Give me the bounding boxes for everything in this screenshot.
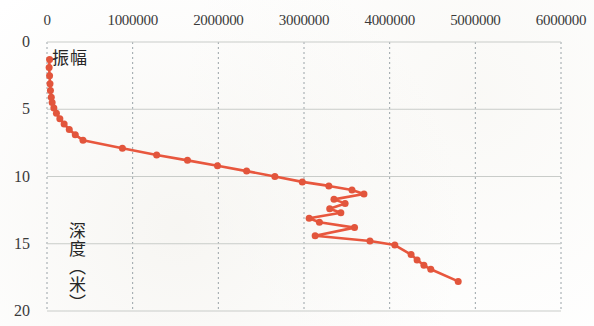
data-point bbox=[243, 168, 250, 175]
data-point bbox=[330, 196, 337, 203]
x-tick-label: 1000000 bbox=[107, 12, 157, 29]
y-tick-label: 15 bbox=[14, 235, 30, 253]
y-tick-label: 20 bbox=[14, 302, 30, 320]
data-point bbox=[342, 200, 349, 207]
x-tick-label: 2000000 bbox=[193, 12, 243, 29]
data-point bbox=[61, 121, 68, 128]
data-point bbox=[420, 262, 427, 269]
data-point bbox=[184, 157, 191, 164]
data-point bbox=[72, 131, 79, 138]
y-tick-label: 5 bbox=[22, 100, 30, 118]
data-point bbox=[46, 72, 53, 79]
data-point bbox=[153, 151, 160, 158]
data-point bbox=[271, 173, 278, 180]
data-point bbox=[427, 266, 434, 273]
data-point bbox=[391, 242, 398, 249]
data-point bbox=[337, 209, 344, 216]
data-point bbox=[312, 232, 319, 239]
data-point bbox=[119, 145, 126, 152]
data-point bbox=[360, 190, 367, 197]
y-tick-label: 10 bbox=[14, 168, 30, 186]
data-point bbox=[299, 178, 306, 185]
amplitude-depth-chart: 0100000020000003000000400000050000006000… bbox=[0, 0, 594, 326]
x-tick-label: 0 bbox=[43, 12, 50, 29]
data-point bbox=[348, 186, 355, 193]
series-label-amplitude: 振幅 bbox=[52, 44, 88, 69]
data-point bbox=[351, 224, 358, 231]
amplitude-series-path bbox=[49, 59, 458, 281]
data-point bbox=[47, 80, 54, 87]
plot-area bbox=[47, 42, 561, 311]
plot-svg bbox=[47, 42, 561, 311]
data-point bbox=[79, 137, 86, 144]
data-point bbox=[325, 182, 332, 189]
y-tick-label: 0 bbox=[22, 33, 30, 51]
x-tick-label: 4000000 bbox=[364, 12, 414, 29]
data-point bbox=[316, 219, 323, 226]
data-point bbox=[408, 251, 415, 258]
data-point bbox=[414, 256, 421, 263]
x-tick-label: 6000000 bbox=[536, 12, 586, 29]
data-point bbox=[366, 238, 373, 245]
data-point bbox=[47, 87, 54, 94]
y-axis-title: 深度（米） bbox=[64, 222, 89, 312]
data-point bbox=[66, 126, 73, 133]
series-line bbox=[49, 59, 458, 281]
series-data-points bbox=[46, 56, 462, 285]
data-point bbox=[455, 278, 462, 285]
data-point bbox=[214, 162, 221, 169]
data-point bbox=[306, 215, 313, 222]
x-tick-label: 5000000 bbox=[450, 12, 500, 29]
x-tick-label: 3000000 bbox=[279, 12, 329, 29]
data-point bbox=[326, 205, 333, 212]
